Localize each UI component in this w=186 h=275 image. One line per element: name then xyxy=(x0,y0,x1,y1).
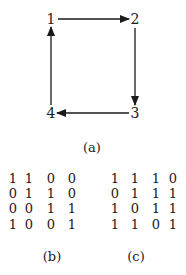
matrix-c-cell: 0 xyxy=(152,218,160,231)
matrix-c-cell: 1 xyxy=(131,218,139,231)
matrix-b-cell: 0 xyxy=(9,187,17,200)
matrix-c-cell: 1 xyxy=(131,172,139,185)
matrix-b-cell: 0 xyxy=(68,172,76,185)
matrix-c-cell: 1 xyxy=(111,172,119,185)
matrix-c-cell: 1 xyxy=(111,202,119,215)
matrix-c-cell: 1 xyxy=(169,202,177,215)
matrix-b-cell: 1 xyxy=(25,187,33,200)
matrix-c-cell: 1 xyxy=(131,187,139,200)
node-2: 2 xyxy=(131,12,140,26)
matrix-c-cell: 1 xyxy=(169,187,177,200)
caption-a: (a) xyxy=(83,141,101,154)
matrix-c-cell: 1 xyxy=(169,218,177,231)
graph-edges xyxy=(0,0,186,275)
matrix-b-cell: 1 xyxy=(25,172,33,185)
matrix-c-cell: 1 xyxy=(152,202,160,215)
matrix-b-cell: 1 xyxy=(68,218,76,231)
node-1: 1 xyxy=(47,12,56,26)
matrix-c-cell: 0 xyxy=(111,187,119,200)
node-4: 4 xyxy=(47,106,56,120)
matrix-b-cell: 1 xyxy=(9,218,17,231)
node-3: 3 xyxy=(131,106,140,120)
matrix-c-cell: 1 xyxy=(152,187,160,200)
matrix-b-cell: 0 xyxy=(47,172,55,185)
matrix-b-cell: 0 xyxy=(25,218,33,231)
matrix-b-cell: 1 xyxy=(9,172,17,185)
matrix-c-cell: 0 xyxy=(169,172,177,185)
matrix-c-cell: 0 xyxy=(131,202,139,215)
matrix-b-cell: 0 xyxy=(68,187,76,200)
matrix-c-cell: 1 xyxy=(152,172,160,185)
caption-b: (b) xyxy=(43,250,61,263)
matrix-b-cell: 0 xyxy=(47,218,55,231)
matrix-b-cell: 0 xyxy=(9,202,17,215)
matrix-b-cell: 1 xyxy=(47,202,55,215)
matrix-c-cell: 1 xyxy=(111,218,119,231)
matrix-b-cell: 0 xyxy=(25,202,33,215)
caption-c: (c) xyxy=(127,250,144,263)
matrix-b-cell: 1 xyxy=(68,202,76,215)
matrix-b-cell: 1 xyxy=(47,187,55,200)
